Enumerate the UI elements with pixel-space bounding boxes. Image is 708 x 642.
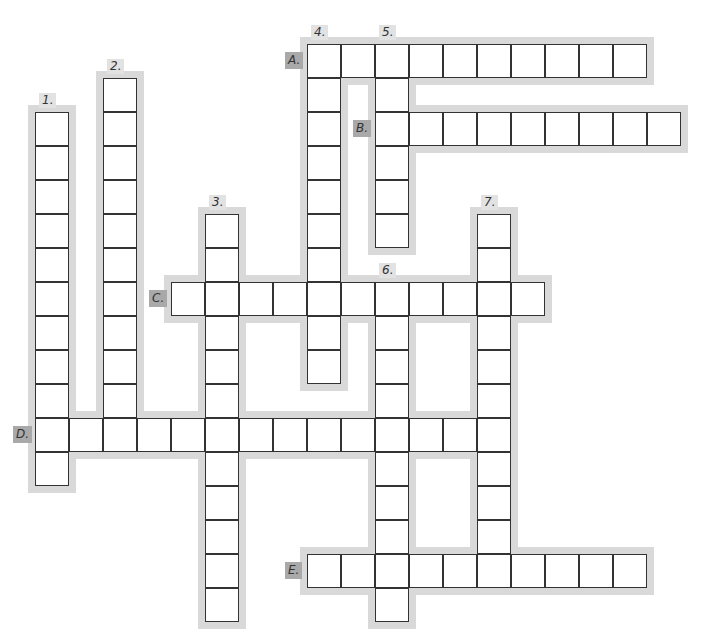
crossword-cell[interactable] [205,554,239,588]
crossword-cell[interactable] [375,78,409,112]
crossword-cell[interactable] [375,350,409,384]
crossword-cell[interactable] [375,588,409,622]
cell-input[interactable] [342,419,374,451]
cell-input[interactable] [580,113,612,145]
cell-input[interactable] [308,79,340,111]
cell-input[interactable] [206,555,238,587]
cell-input[interactable] [614,45,646,77]
crossword-cell[interactable] [205,384,239,418]
crossword-cell[interactable] [35,112,69,146]
cell-input[interactable] [546,45,578,77]
crossword-cell[interactable] [35,146,69,180]
crossword-cell[interactable] [409,112,443,146]
cell-input[interactable] [104,385,136,417]
crossword-cell[interactable] [307,214,341,248]
cell-input[interactable] [410,555,442,587]
cell-input[interactable] [36,351,68,383]
cell-input[interactable] [376,453,408,485]
cell-input[interactable] [104,283,136,315]
cell-input[interactable] [478,215,510,247]
cell-input[interactable] [376,385,408,417]
cell-input[interactable] [376,147,408,179]
crossword-cell[interactable] [307,554,341,588]
crossword-cell[interactable] [409,554,443,588]
crossword-cell[interactable] [375,180,409,214]
cell-input[interactable] [580,555,612,587]
crossword-cell[interactable] [443,418,477,452]
cell-input[interactable] [478,113,510,145]
cell-input[interactable] [206,521,238,553]
cell-input[interactable] [206,419,238,451]
cell-input[interactable] [376,113,408,145]
cell-input[interactable] [444,283,476,315]
crossword-cell[interactable] [103,78,137,112]
crossword-cell[interactable] [477,44,511,78]
cell-input[interactable] [274,283,306,315]
cell-input[interactable] [36,181,68,213]
crossword-cell[interactable] [375,486,409,520]
crossword-cell[interactable] [35,282,69,316]
crossword-cell[interactable] [307,112,341,146]
crossword-cell[interactable] [613,112,647,146]
crossword-cell[interactable] [579,554,613,588]
crossword-cell[interactable] [443,282,477,316]
cell-input[interactable] [342,45,374,77]
cell-input[interactable] [308,555,340,587]
cell-input[interactable] [308,113,340,145]
cell-input[interactable] [206,317,238,349]
cell-input[interactable] [206,351,238,383]
crossword-cell[interactable] [375,146,409,180]
cell-input[interactable] [376,181,408,213]
cell-input[interactable] [308,351,340,383]
crossword-cell[interactable] [137,418,171,452]
crossword-cell[interactable] [307,248,341,282]
crossword-cell[interactable] [511,554,545,588]
cell-input[interactable] [478,45,510,77]
crossword-cell[interactable] [103,418,137,452]
cell-input[interactable] [444,555,476,587]
crossword-cell[interactable] [375,282,409,316]
crossword-cell[interactable] [307,44,341,78]
cell-input[interactable] [36,215,68,247]
crossword-cell[interactable] [341,44,375,78]
crossword-cell[interactable] [205,418,239,452]
cell-input[interactable] [478,453,510,485]
crossword-cell[interactable] [477,554,511,588]
cell-input[interactable] [478,521,510,553]
cell-input[interactable] [444,45,476,77]
crossword-cell[interactable] [35,452,69,486]
cell-input[interactable] [206,283,238,315]
cell-input[interactable] [172,419,204,451]
cell-input[interactable] [478,487,510,519]
cell-input[interactable] [444,113,476,145]
crossword-cell[interactable] [477,282,511,316]
crossword-cell[interactable] [171,418,205,452]
crossword-cell[interactable] [375,418,409,452]
cell-input[interactable] [478,283,510,315]
cell-input[interactable] [274,419,306,451]
crossword-cell[interactable] [375,44,409,78]
crossword-cell[interactable] [205,316,239,350]
crossword-cell[interactable] [545,554,579,588]
crossword-cell[interactable] [205,282,239,316]
cell-input[interactable] [36,453,68,485]
crossword-cell[interactable] [375,316,409,350]
crossword-cell[interactable] [341,554,375,588]
crossword-cell[interactable] [477,248,511,282]
crossword-cell[interactable] [307,282,341,316]
cell-input[interactable] [36,385,68,417]
cell-input[interactable] [546,113,578,145]
cell-input[interactable] [478,385,510,417]
crossword-cell[interactable] [613,554,647,588]
crossword-cell[interactable] [341,282,375,316]
crossword-cell[interactable] [205,588,239,622]
crossword-cell[interactable] [205,248,239,282]
crossword-cell[interactable] [35,180,69,214]
crossword-cell[interactable] [205,214,239,248]
cell-input[interactable] [410,283,442,315]
crossword-cell[interactable] [545,112,579,146]
crossword-cell[interactable] [477,112,511,146]
crossword-cell[interactable] [205,350,239,384]
cell-input[interactable] [308,181,340,213]
cell-input[interactable] [240,419,272,451]
